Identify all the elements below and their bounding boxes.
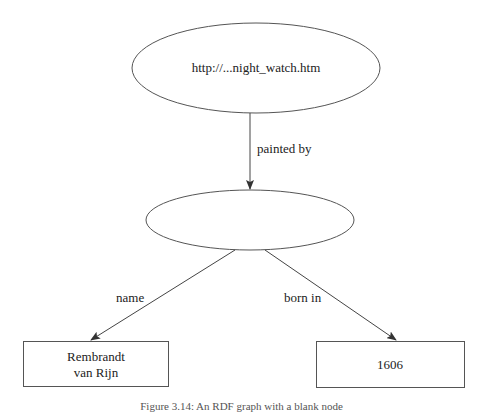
blank-node: [146, 190, 354, 250]
name-literal-node: Rembrandt van Rijn: [24, 342, 169, 387]
edge-painted-by-label: painted by: [257, 141, 312, 156]
resource-node: http://...night_watch.htm: [132, 23, 380, 113]
year-literal-label: 1606: [377, 357, 404, 372]
edge-born-in: born in: [265, 250, 396, 340]
edge-name-label: name: [116, 290, 144, 305]
name-literal-line-2: van Rijn: [74, 365, 119, 380]
blank-node-ellipse: [146, 190, 354, 250]
year-literal-node: 1606: [317, 342, 465, 388]
edge-name: name: [91, 250, 235, 340]
edge-painted-by: painted by: [250, 113, 312, 189]
figure-caption: Figure 3.14: An RDF graph with a blank n…: [0, 400, 483, 412]
name-literal-line-1: Rembrandt: [67, 349, 125, 364]
edge-born-in-label: born in: [284, 290, 322, 305]
resource-node-label: http://...night_watch.htm: [192, 60, 321, 75]
edge-name-arrow: [91, 250, 235, 340]
